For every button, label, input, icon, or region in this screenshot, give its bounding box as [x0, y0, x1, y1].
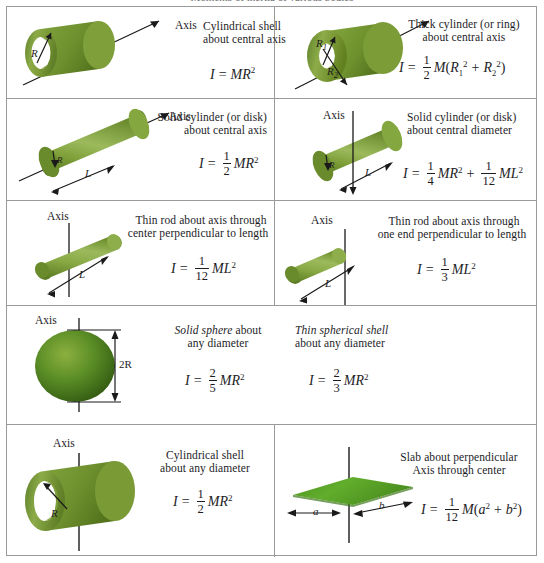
formula-symbol-R: R — [220, 494, 229, 509]
formula-symbol-I: I — [309, 373, 314, 388]
formula-symbol-R: R — [242, 67, 251, 82]
table-row: Axis R L Solid cylinder (or disk) about … — [7, 99, 536, 201]
cell-thin-rod-center: Axis L Thin rod about axis through cente… — [7, 201, 274, 305]
formula-equals: = — [190, 373, 206, 388]
cell-slab: a b Slab about perpendicular Axis throug… — [275, 425, 536, 557]
caption-line-1: Solid sphere about — [157, 324, 279, 338]
cell-cylindrical-shell-any-diameter: Axis R Cylindrical shell about any diame… — [7, 425, 274, 557]
caption-line-1: Thick cylinder (or ring) — [395, 18, 533, 32]
formula-fraction: 13 — [440, 256, 450, 284]
axis-label: Axis — [47, 210, 69, 222]
formula-fraction: 112 — [194, 255, 211, 283]
length-label: L — [365, 166, 371, 178]
formula-symbol-I: I — [417, 262, 422, 277]
axis-label: Axis — [35, 314, 57, 326]
formula-expression-thin-shell: I=23MR2 — [309, 368, 369, 396]
formula-equals: = — [404, 60, 420, 75]
slab-figure — [279, 425, 449, 557]
caption-line-2: about central diameter — [407, 124, 537, 138]
formula-symbol-R: R — [450, 166, 459, 181]
cylindrical-shell-figure — [11, 7, 191, 99]
formula-symbol-I: I — [171, 261, 176, 276]
formula-symbol-M: M — [208, 494, 220, 509]
formula-close-paren: ) — [501, 60, 506, 75]
formula-fraction: 12 — [422, 54, 432, 82]
clipped-caption-text: Moments of inertia of various bodies — [0, 0, 544, 3]
formula-equals: = — [215, 67, 231, 82]
axis-label: Axis — [53, 437, 75, 449]
formula-symbol-R: R — [246, 156, 255, 171]
formula-equals: = — [426, 502, 442, 517]
caption-line-1: Slab about perpendicular — [383, 451, 535, 465]
moment-of-inertia-table-page: Moments of inertia of various bodies — [0, 0, 544, 563]
formula-equals: = — [422, 262, 438, 277]
formula-symbol-M: M — [234, 156, 246, 171]
formula-equals: = — [178, 494, 194, 509]
formula-symbol-M: M — [212, 261, 224, 276]
formula-symbol-I: I — [185, 373, 190, 388]
formula-symbol-R: R — [232, 373, 241, 388]
caption-line-2: center perpendicular to length — [121, 227, 275, 241]
caption-line-1: Thin rod about axis through — [127, 214, 275, 228]
caption-line-1: Solid cylinder (or disk) — [127, 111, 267, 125]
formula-symbol-I: I — [421, 502, 426, 517]
formula-symbol-I: I — [403, 166, 408, 181]
formula-symbol-M: M — [462, 502, 474, 517]
axis-label: Axis — [311, 214, 333, 226]
formula-fraction-2: 112 — [480, 160, 497, 188]
caption-line-1: Solid cylinder (or disk) — [407, 111, 537, 125]
formula-fraction-1: 14 — [426, 160, 436, 188]
diameter-label: 2R — [119, 358, 132, 370]
formula-fraction: 112 — [444, 496, 461, 524]
caption-line-2: one end perpendicular to length — [371, 228, 533, 242]
formula-plus: + — [463, 166, 479, 181]
formula-equals: = — [176, 261, 192, 276]
caption-line-2: about central axis — [127, 124, 267, 138]
formula-symbol-R2: R — [483, 60, 492, 75]
formula-equals: = — [314, 373, 330, 388]
caption-line-1: Thin rod about axis through — [375, 215, 533, 229]
table-row: Axis 2R Solid sphere about any diameter … — [7, 306, 536, 425]
formula-equals: = — [204, 156, 220, 171]
formula-symbol-I: I — [173, 494, 178, 509]
table-row: Axis R Cylindrical shell about any diame… — [7, 425, 536, 557]
formula-expression: I=112M(a2+b2) — [421, 497, 522, 525]
formula-symbol-M: M — [344, 373, 356, 388]
caption-line-1: Cylindrical shell — [149, 449, 261, 463]
clipped-caption-strip: Moments of inertia of various bodies — [0, 0, 544, 5]
formula-expression: I=12MR2 — [199, 151, 259, 179]
formula-symbol-b: b — [506, 502, 513, 517]
length-label: L — [325, 277, 331, 289]
formula-plus: + — [490, 502, 506, 517]
formula-symbol-M: M — [452, 262, 464, 277]
formula-fraction: 25 — [208, 367, 218, 395]
formula-expression: I=12M(R12+R22) — [399, 55, 505, 83]
formula-plus: + — [467, 60, 483, 75]
formula-symbol-I: I — [210, 67, 215, 82]
formula-expression: I=13ML2 — [417, 257, 476, 285]
formula-symbol-L: L — [224, 261, 232, 276]
caption-line-2: about central axis — [395, 31, 533, 45]
cell-solid-cylinder-central-axis: Axis R L Solid cylinder (or disk) about … — [7, 99, 274, 200]
caption-line-1: Thin spherical shell — [295, 324, 455, 338]
radius-label: R — [51, 507, 58, 519]
cell-sphere-row: Axis 2R Solid sphere about any diameter … — [7, 306, 536, 424]
formula-fraction: 12 — [196, 488, 206, 516]
formula-symbol-I: I — [199, 156, 204, 171]
cell-solid-cylinder-central-diameter: Axis R L Solid cylinder (or disk) about … — [275, 99, 536, 200]
formula-symbol-M: M — [438, 166, 450, 181]
cell-thin-rod-end: Axis L Thin rod about axis through one e… — [275, 201, 536, 305]
axis-label: Axis — [323, 109, 345, 121]
formula-symbol-I: I — [399, 60, 404, 75]
radius-label: R — [31, 47, 38, 59]
radius-2-label: R2 — [327, 65, 338, 80]
formula-symbol-M2: M — [499, 166, 511, 181]
table-row: Axis R Cylindrical shell about central a… — [7, 7, 536, 99]
side-b-label: b — [379, 499, 385, 511]
formula-expression: I=MR2 — [210, 65, 255, 83]
table-row: Axis L Thin rod about axis through cente… — [7, 201, 536, 306]
radius-label: R — [329, 160, 335, 170]
side-a-label: a — [313, 505, 319, 517]
formula-symbol-M: M — [220, 373, 232, 388]
cell-thick-cylinder-central-axis: R1 R2 Thick cylinder (or ring) about cen… — [275, 7, 536, 98]
